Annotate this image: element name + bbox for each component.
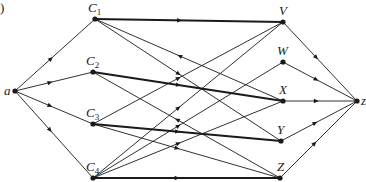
edge-C4-V: [93, 22, 283, 178]
edge-a-C1: [15, 19, 95, 91]
node-label-V: V: [279, 3, 289, 18]
node-Y: [278, 138, 283, 143]
node-C4: [90, 175, 95, 180]
edge-a-C3: [15, 91, 93, 124]
arrowhead-icon: [314, 99, 319, 103]
node-W: [280, 59, 285, 64]
node-label-C2: C2: [86, 53, 99, 70]
node-a: [12, 88, 17, 93]
edge-a-C4: [15, 91, 93, 178]
arrowhead-icon: [177, 18, 182, 22]
node-label-Y: Y: [277, 122, 286, 137]
edge-C1-V: [95, 19, 283, 22]
node-label-C4: C4: [86, 159, 100, 176]
node-C3: [90, 121, 95, 126]
node-Z: [277, 175, 282, 180]
edge-Z-z: [280, 101, 357, 178]
node-label-a: a: [4, 83, 11, 98]
node-C2: [90, 69, 95, 74]
edge-C4-W: [93, 62, 283, 178]
arrowhead-icon: [47, 81, 52, 85]
edge-Y-z: [281, 101, 357, 141]
edge-W-z: [283, 62, 357, 101]
edge-C3-V: [93, 22, 283, 124]
node-C1: [92, 16, 97, 21]
node-V: [280, 19, 285, 24]
node-label-C1: C1: [88, 0, 101, 17]
arrowhead-icon: [174, 145, 179, 149]
node-label-C3: C3: [86, 105, 100, 122]
node-label-W: W: [277, 43, 289, 58]
node-X: [280, 98, 285, 103]
figure-label-fragment: ): [0, 0, 4, 15]
flow-network-diagram: ) aC1C2C3C4VWXYZz: [0, 0, 366, 182]
nodes: aC1C2C3C4VWXYZz: [4, 0, 366, 181]
edge-V-z: [283, 22, 357, 101]
edges: [15, 18, 357, 180]
edge-C2-X: [93, 72, 283, 101]
arrowhead-icon: [175, 176, 180, 180]
node-z: [354, 98, 359, 103]
arrowhead-icon: [175, 71, 180, 76]
edge-a-C2: [15, 72, 93, 91]
node-label-z: z: [360, 93, 366, 108]
node-label-Z: Z: [277, 159, 285, 174]
node-label-X: X: [278, 82, 288, 97]
arrowhead-icon: [175, 124, 180, 128]
